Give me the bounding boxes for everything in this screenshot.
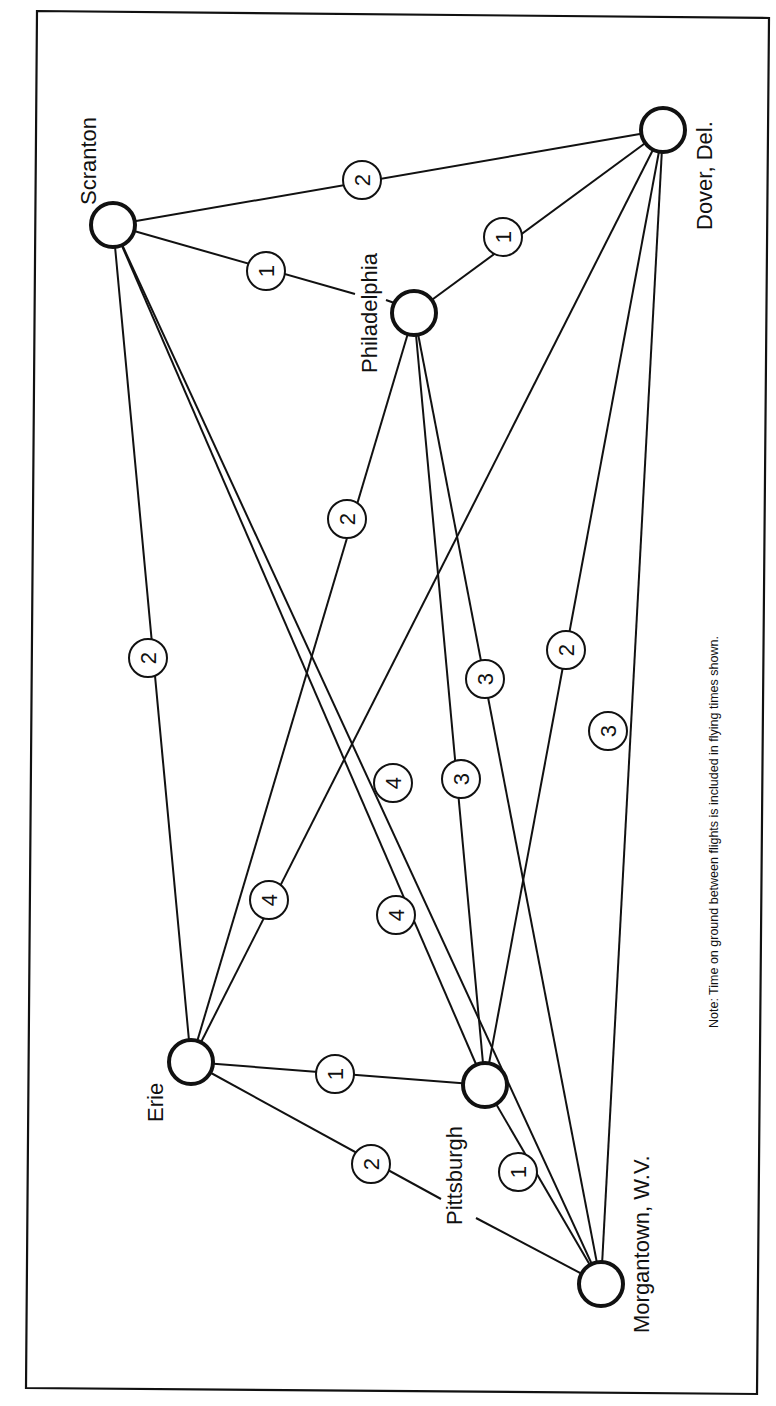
label-erie: Erie <box>143 1083 168 1122</box>
edge-scranton-philadelphia <box>113 225 355 294</box>
edge-philadelphia-dover <box>414 130 663 313</box>
svg-text:4: 4 <box>257 894 282 906</box>
badge-philadelphia-pittsburgh: 3 <box>442 760 480 798</box>
svg-text:4: 4 <box>381 777 406 789</box>
edge-erie-morgantown <box>191 1062 441 1199</box>
badge-erie-morgantown: 2 <box>352 1145 390 1183</box>
node-morgantown <box>579 1262 623 1306</box>
svg-text:2: 2 <box>350 174 375 186</box>
badge-scranton-pittsburgh: 4 <box>377 896 415 934</box>
edges <box>113 130 663 1284</box>
svg-text:4: 4 <box>384 909 409 921</box>
label-scranton: Scranton <box>76 117 101 205</box>
badge-scranton-dover: 2 <box>343 161 381 199</box>
svg-text:2: 2 <box>554 644 579 656</box>
edge-philadelphia-pittsburgh <box>414 313 485 1085</box>
svg-text:3: 3 <box>473 673 498 685</box>
svg-text:1: 1 <box>254 265 279 277</box>
svg-text:2: 2 <box>335 513 360 525</box>
badge-dover-pittsburgh: 2 <box>547 631 585 669</box>
badge-philadelphia-erie: 2 <box>328 500 366 538</box>
badge-dover-erie: 4 <box>250 881 288 919</box>
badge-pittsburgh-morgantown: 1 <box>499 1153 537 1191</box>
svg-text:1: 1 <box>323 1068 348 1080</box>
node-dover <box>641 108 685 152</box>
edge-scranton-morgantown <box>113 225 601 1284</box>
diagram-note: Note: Time on ground between flights is … <box>707 636 721 1028</box>
edge-scranton-pittsburgh <box>113 225 485 1085</box>
node-pittsburgh <box>463 1063 507 1107</box>
badge-scranton-morgantown: 4 <box>374 764 412 802</box>
label-pittsburgh: Pittsburgh <box>442 1126 467 1225</box>
label-dover: Dover, Del. <box>692 121 717 230</box>
city-nodes <box>91 108 685 1306</box>
svg-text:1: 1 <box>506 1166 531 1178</box>
edge-dover-morgantown <box>601 130 663 1284</box>
node-scranton <box>91 203 135 247</box>
badge-scranton-erie: 2 <box>129 639 167 677</box>
label-morgantown: Morgantown, W.V. <box>629 1155 654 1333</box>
badge-dover-morgantown: 3 <box>589 712 627 750</box>
badge-philadelphia-morgantown: 3 <box>466 660 504 698</box>
badge-erie-pittsburgh: 1 <box>316 1055 354 1093</box>
badge-philadelphia-dover: 1 <box>484 218 522 256</box>
edge-dover-pittsburgh <box>485 130 663 1085</box>
svg-text:1: 1 <box>491 231 516 243</box>
svg-text:3: 3 <box>596 725 621 737</box>
flight-network-diagram: 2 1 1 2 4 4 2 3 <box>0 0 776 1406</box>
svg-text:2: 2 <box>136 652 161 664</box>
svg-text:3: 3 <box>449 773 474 785</box>
svg-text:2: 2 <box>359 1158 384 1170</box>
node-erie <box>169 1040 213 1084</box>
label-philadelphia: Philadelphia <box>357 252 382 373</box>
node-philadelphia <box>392 291 436 335</box>
badge-scranton-philadelphia: 1 <box>247 252 285 290</box>
edge-scranton-dover <box>113 130 663 225</box>
